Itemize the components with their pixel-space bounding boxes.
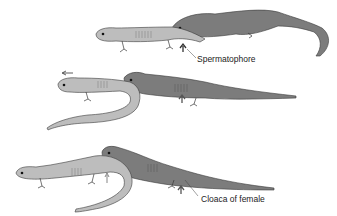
spermatophore-label: Spermatophore: [197, 54, 256, 64]
dark-salamander-2: [124, 72, 296, 99]
light-salamander-2: [47, 78, 140, 130]
dark-salamander-1: [172, 10, 329, 56]
direction-arrow: [62, 71, 73, 75]
panel-1: [96, 10, 329, 58]
spermatophore-arrow: [180, 44, 186, 52]
panel-2: [47, 71, 296, 130]
light-salamander-3: [16, 156, 132, 212]
cloaca-label: Cloaca of female: [201, 194, 265, 204]
salamander-diagram: [0, 0, 337, 216]
